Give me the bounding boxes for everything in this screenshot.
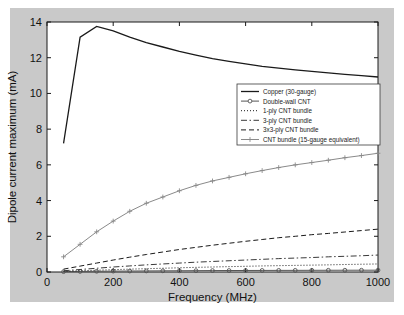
legend-label-4: 3x3-ply CNT bundle bbox=[263, 126, 319, 134]
y-tick-label: 2 bbox=[36, 230, 42, 242]
y-tick-label: 4 bbox=[36, 195, 42, 207]
y-tick-label: 14 bbox=[30, 16, 42, 28]
x-axis-title: Frequency (MHz) bbox=[168, 291, 257, 303]
legend-label-3: 3-ply CNT bundle bbox=[263, 117, 312, 125]
x-tick-label: 0 bbox=[44, 276, 50, 288]
y-tick-label: 8 bbox=[36, 123, 42, 135]
x-tick-label: 400 bbox=[170, 276, 188, 288]
y-tick-label: 0 bbox=[36, 266, 42, 278]
chart-container: 0200400600800100002468101214Frequency (M… bbox=[0, 0, 404, 315]
y-axis-title: Dipole current maximum (mA) bbox=[6, 70, 18, 223]
legend-label-1: Double-wall CNT bbox=[263, 98, 311, 105]
y-tick-label: 12 bbox=[30, 52, 42, 64]
legend-marker-1 bbox=[248, 99, 252, 103]
y-tick-label: 6 bbox=[36, 159, 42, 171]
legend-label-2: 1-ply CNT bundle bbox=[263, 107, 312, 115]
x-tick-label: 1000 bbox=[366, 276, 390, 288]
y-tick-label: 10 bbox=[30, 87, 42, 99]
legend-label-5: CNT bundle (15-gauge equivalent) bbox=[263, 136, 360, 144]
x-tick-label: 800 bbox=[303, 276, 321, 288]
plot-area bbox=[47, 22, 378, 272]
line-chart: 0200400600800100002468101214Frequency (M… bbox=[0, 0, 404, 315]
x-tick-label: 600 bbox=[236, 276, 254, 288]
x-tick-label: 200 bbox=[104, 276, 122, 288]
legend-label-0: Copper (30-gauge) bbox=[263, 88, 316, 96]
